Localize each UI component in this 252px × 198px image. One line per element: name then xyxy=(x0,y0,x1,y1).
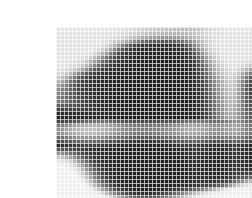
page-canvas xyxy=(0,0,252,198)
pixelated-portrait-figure xyxy=(56,27,252,198)
pixelated-portrait-image xyxy=(56,27,252,198)
